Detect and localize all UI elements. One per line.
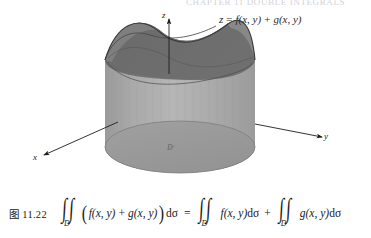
figure-page: CHAPTER 11 DOUBLE INTEGRALS	[0, 0, 371, 238]
figure-illustration: z=f(x, y)+g(x, y) z y x D	[0, 0, 371, 186]
double-integral-lhs: ∫ ∫ D	[61, 196, 78, 230]
rhs-measure-2: dσ	[329, 207, 341, 219]
integral-sign: ∫	[199, 195, 205, 222]
lhs-measure: dσ	[166, 207, 178, 219]
integral-sign: ∫	[285, 195, 291, 222]
surface-equation-equals: =	[226, 13, 232, 25]
y-axis-label: y	[324, 131, 328, 141]
rhs-term-g: g(x, y)	[300, 207, 329, 219]
integral-domain-subscript: D	[64, 219, 70, 228]
lhs-term-g: g(x, y)	[128, 207, 157, 219]
rhs-term-f: f(x, y)	[220, 207, 247, 219]
formula-equals: =	[184, 207, 191, 219]
surface-equation-label: z=f(x, y)+g(x, y)	[219, 13, 301, 25]
integral-sign: ∫	[69, 195, 75, 222]
figure-number: 图 11.22	[9, 206, 47, 221]
saddle-surface-svg	[0, 0, 371, 186]
surface-equation-plus: +	[264, 13, 270, 25]
figure-caption: 图 11.22 ∫ ∫ D ( f(x, y) + g(x, y) ) dσ =…	[0, 188, 371, 238]
surface-equation-lhs: z	[219, 13, 223, 25]
integral-domain-subscript: D	[281, 219, 287, 228]
caption-formula: ∫ ∫ D ( f(x, y) + g(x, y) ) dσ = ∫ ∫ D f…	[59, 196, 341, 230]
open-paren: (	[82, 208, 87, 219]
double-integral-rhs-2: ∫ ∫ D	[278, 196, 295, 230]
integral-domain-subscript: D	[201, 219, 207, 228]
surface-equation-term1: f(x, y)	[236, 13, 262, 25]
lhs-plus: +	[118, 207, 125, 219]
close-paren: )	[159, 208, 164, 219]
domain-base-ellipse	[105, 121, 255, 173]
integral-sign: ∫	[62, 195, 68, 222]
x-axis-label: x	[33, 152, 37, 162]
y-axis	[255, 124, 322, 137]
rhs-measure-1: dσ	[247, 207, 259, 219]
rhs-plus: +	[264, 207, 271, 219]
double-integral-rhs-1: ∫ ∫ D	[198, 196, 215, 230]
integral-sign: ∫	[206, 195, 212, 222]
z-axis-label: z	[162, 10, 166, 20]
integral-sign: ∫	[278, 195, 284, 222]
lhs-term-f: f(x, y)	[89, 207, 116, 219]
domain-label: D	[167, 143, 173, 152]
surface-equation-term2: g(x, y)	[273, 13, 301, 25]
